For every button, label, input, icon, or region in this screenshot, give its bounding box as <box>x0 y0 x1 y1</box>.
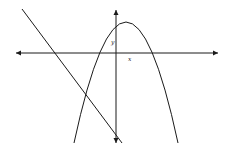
y-axis-label: y <box>110 38 115 46</box>
x-axis-label: x <box>128 55 132 62</box>
coordinate-graph: y x <box>0 0 225 153</box>
line-curve <box>22 9 122 143</box>
parabola-curve <box>74 22 178 143</box>
